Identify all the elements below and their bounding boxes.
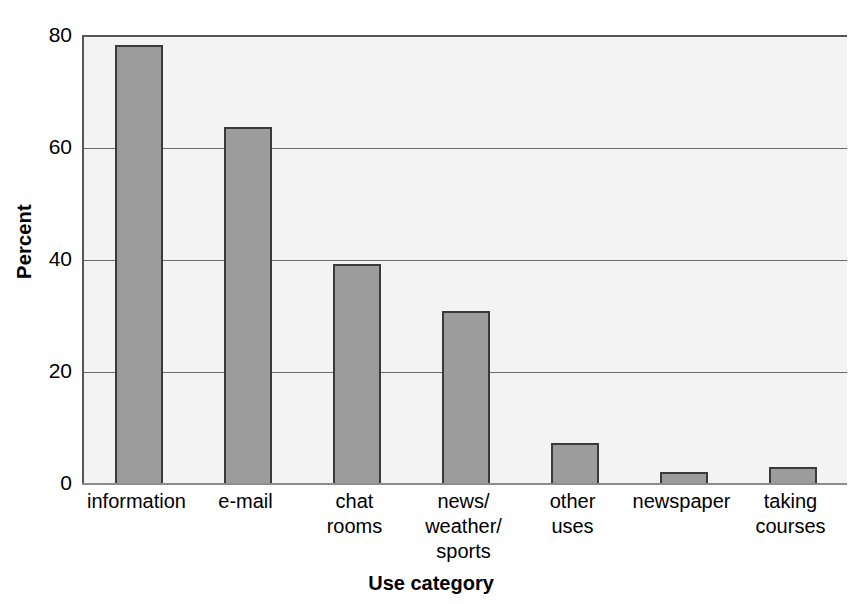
y-tick-label: 40 — [49, 247, 72, 271]
x-tick-label: information — [87, 489, 186, 514]
bar[interactable] — [551, 443, 599, 485]
gridline-60 — [84, 148, 847, 149]
bar[interactable] — [115, 45, 163, 485]
y-axis-tick-labels: 020406080 — [38, 35, 78, 483]
bar[interactable] — [333, 264, 381, 485]
x-tick-label: news/weather/sports — [425, 489, 502, 564]
x-axis-title: Use category — [0, 572, 862, 595]
x-tick-label: newspaper — [633, 489, 731, 514]
bar[interactable] — [442, 311, 490, 485]
y-axis-title-text: Percent — [13, 204, 36, 279]
bar[interactable] — [224, 127, 272, 485]
bar-chart-figure: Percent 020406080 informatione-mailchatr… — [0, 0, 862, 604]
x-axis-baseline — [82, 483, 847, 485]
x-tick-label: e-mail — [218, 489, 272, 514]
y-tick-label: 80 — [49, 23, 72, 47]
y-axis-title: Percent — [6, 0, 42, 483]
gridline-40 — [84, 260, 847, 261]
y-tick-label: 0 — [60, 471, 72, 495]
x-axis-tick-labels: informatione-mailchatroomsnews/weather/s… — [82, 489, 845, 559]
x-tick-label: takingcourses — [755, 489, 825, 539]
y-tick-label: 60 — [49, 135, 72, 159]
y-tick-label: 20 — [49, 359, 72, 383]
x-tick-label: otheruses — [550, 489, 596, 539]
x-tick-label: chatrooms — [327, 489, 383, 539]
plot-area — [82, 35, 847, 485]
